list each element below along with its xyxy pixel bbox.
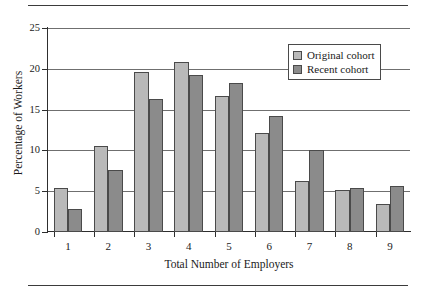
x-tick-label: 5 <box>214 240 244 252</box>
bar <box>189 75 203 232</box>
bar <box>390 186 404 232</box>
x-tick-mark <box>174 232 175 237</box>
y-axis-label: Percentage of Workers <box>12 43 24 203</box>
bar <box>335 190 349 232</box>
x-tick-mark <box>134 232 135 237</box>
x-axis-label: Total Number of Employers <box>48 258 410 270</box>
x-tick-mark <box>335 232 336 237</box>
legend-swatch-recent-cohort <box>293 65 302 74</box>
y-tick-label-wrap: 25 <box>12 23 40 34</box>
bar <box>108 170 122 232</box>
bar <box>309 150 323 232</box>
legend-item-recent-cohort: Recent cohort <box>293 62 375 76</box>
y-tick-mark <box>42 232 48 233</box>
bar <box>350 188 364 232</box>
y-tick-mark <box>42 69 48 70</box>
x-tick-mark <box>94 232 95 237</box>
x-tick-mark <box>295 232 296 237</box>
x-tick-label: 2 <box>93 240 123 252</box>
x-tick-label: 1 <box>53 240 83 252</box>
bar <box>295 181 309 232</box>
bar <box>174 62 188 232</box>
y-tick-label: 25 <box>16 23 40 34</box>
top-rule <box>28 5 408 6</box>
chart-legend: Original cohort Recent cohort <box>288 44 381 80</box>
bar <box>68 209 82 232</box>
bar <box>229 83 243 232</box>
bar <box>149 99 163 232</box>
x-tick-label: 7 <box>294 240 324 252</box>
y-tick-mark <box>42 191 48 192</box>
x-tick-mark <box>255 232 256 237</box>
bar <box>94 146 108 232</box>
legend-label-recent-cohort: Recent cohort <box>307 64 368 75</box>
legend-swatch-original-cohort <box>293 51 302 60</box>
bar <box>269 116 283 232</box>
legend-item-original-cohort: Original cohort <box>293 48 375 62</box>
bar <box>215 96 229 232</box>
gridline <box>48 28 410 29</box>
legend-label-original-cohort: Original cohort <box>307 50 375 61</box>
y-tick-mark <box>42 110 48 111</box>
bar <box>376 204 390 232</box>
x-tick-mark <box>54 232 55 237</box>
y-tick-label: 0 <box>16 227 40 238</box>
x-tick-label: 4 <box>174 240 204 252</box>
y-tick-mark <box>42 150 48 151</box>
x-tick-label: 6 <box>254 240 284 252</box>
x-tick-mark <box>376 232 377 237</box>
x-tick-mark <box>215 232 216 237</box>
y-tick-mark <box>42 28 48 29</box>
x-tick-label: 9 <box>375 240 405 252</box>
bottom-rule <box>28 285 408 286</box>
bar <box>255 133 269 232</box>
y-tick-label-wrap: 0 <box>12 227 40 238</box>
x-tick-label: 8 <box>335 240 365 252</box>
x-tick-label: 3 <box>134 240 164 252</box>
bar <box>54 188 68 232</box>
bar-chart-figure: 0510152025 123456789 Total Number of Emp… <box>0 0 435 294</box>
bar <box>134 72 148 232</box>
